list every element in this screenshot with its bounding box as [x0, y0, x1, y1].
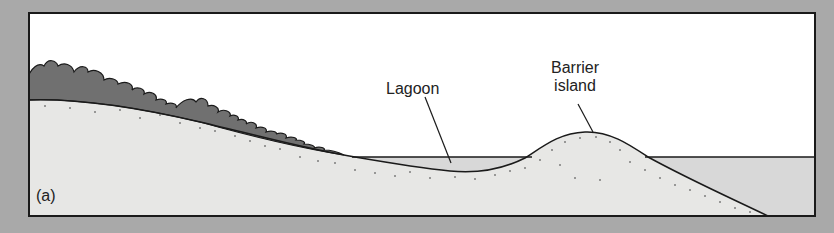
lagoon-label: Lagoon: [386, 80, 439, 98]
barrier-label-line2: island: [545, 77, 605, 95]
panel-label: (a): [36, 187, 56, 205]
diagram-stage: Lagoon Barrier island (a): [0, 0, 834, 233]
barrier-island-label: Barrier island: [545, 59, 605, 95]
barrier-island-diagram: [0, 0, 834, 233]
barrier-label-line1: Barrier: [545, 59, 605, 77]
